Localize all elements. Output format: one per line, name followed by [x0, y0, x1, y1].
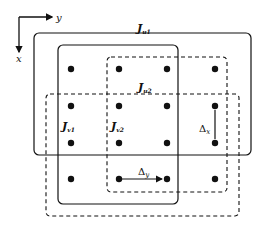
label-j-v1: Jv1: [60, 120, 75, 133]
label-j-u1: Ju1: [135, 22, 151, 35]
grid-point: [212, 176, 218, 182]
grid-point: [212, 66, 218, 72]
delta-x-label: Δx: [199, 123, 210, 136]
grid-point: [68, 176, 74, 182]
grid-point: [164, 176, 170, 182]
grid-point: [164, 66, 170, 72]
coordinate-axes: y x: [16, 12, 62, 64]
grid-point: [212, 140, 218, 146]
region-j-u2: [107, 57, 227, 192]
grid-point: [68, 103, 74, 109]
grid-point: [68, 140, 74, 146]
grid-point: [164, 103, 170, 109]
grid-point: [164, 140, 170, 146]
delta-y-label: Δy: [138, 166, 150, 179]
grid-point: [116, 140, 122, 146]
grid-point: [116, 66, 122, 72]
y-axis-label: y: [55, 12, 62, 23]
x-axis-label: x: [16, 53, 22, 64]
delta-y-indicator: Δy: [122, 166, 162, 179]
grid-point: [116, 176, 122, 182]
delta-x-indicator: Δx: [199, 110, 215, 139]
grid-point: [68, 66, 74, 72]
grid-point: [212, 103, 218, 109]
overlapping-subdomain-diagram: y x Ju1 Ju2 Jv1 Jv2 Δx Δy: [0, 0, 264, 228]
label-j-v2: Jv2: [109, 120, 124, 133]
grid-point: [116, 103, 122, 109]
label-j-u2: Ju2: [136, 81, 152, 94]
